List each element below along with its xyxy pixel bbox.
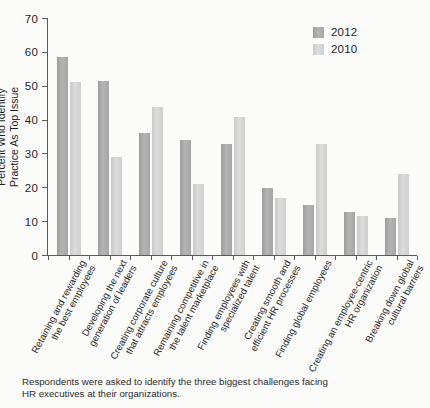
bar-2010: [193, 184, 204, 255]
bar-2012: [303, 205, 314, 255]
bar-2010: [152, 107, 163, 255]
y-tick-label-20: 20: [25, 182, 38, 194]
legend-item-2010[interactable]: 2010: [313, 43, 357, 55]
legend-label-2010: 2010: [331, 43, 357, 55]
legend-item-2012[interactable]: 2012: [313, 26, 357, 38]
y-axis-title-line-0: Percent Who Identify: [0, 87, 7, 187]
chart-legend: 20122010: [313, 26, 357, 55]
y-tick-60: 60: [42, 52, 47, 53]
y-tick-70: 70: [42, 18, 47, 19]
y-tick-label-70: 70: [25, 13, 38, 25]
bar-group: [212, 18, 253, 255]
bar-2010: [398, 174, 409, 255]
bar-2012: [344, 212, 355, 255]
bar-group: [48, 18, 89, 255]
bar-group: [130, 18, 171, 255]
footnote-line-1: HR executives at their organizations.: [22, 388, 412, 400]
bar-2012: [139, 133, 150, 255]
bar-2010: [234, 117, 245, 255]
bar-2012: [221, 144, 232, 255]
bar-series-container: [48, 18, 417, 255]
bar-2010: [316, 144, 327, 255]
y-tick-label-30: 30: [25, 148, 38, 160]
y-tick-10: 10: [42, 221, 47, 222]
y-tick-50: 50: [42, 86, 47, 87]
legend-swatch-2012: [313, 27, 324, 38]
footnote-line-0: Respondents were asked to identify the t…: [22, 376, 412, 388]
y-axis-title-line-1: Practice As Top Issue: [7, 87, 20, 187]
y-tick-40: 40: [42, 120, 47, 121]
bar-2012: [180, 140, 191, 255]
bar-group: [253, 18, 294, 255]
bar-group: [376, 18, 417, 255]
bar-2010: [275, 198, 286, 255]
bar-2012: [262, 188, 273, 255]
bar-2012: [385, 218, 396, 255]
y-tick-0: 0: [42, 255, 47, 256]
bar-2010: [357, 216, 368, 255]
y-tick-label-0: 0: [31, 250, 38, 262]
bar-chart-figure: 010203040506070 Percent Who IdentifyPrac…: [0, 0, 430, 408]
y-tick-label-40: 40: [25, 114, 38, 126]
bar-group: [171, 18, 212, 255]
x-axis-category-labels: Retaining and rewardingthe best employee…: [47, 258, 417, 368]
y-tick-label-60: 60: [25, 46, 38, 58]
y-tick-20: 20: [42, 187, 47, 188]
legend-label-2012: 2012: [331, 26, 357, 38]
y-tick-30: 30: [42, 153, 47, 154]
bar-group: [89, 18, 130, 255]
bar-2010: [111, 157, 122, 255]
bar-2010: [70, 82, 81, 255]
plot-area: 010203040506070 Percent Who IdentifyPrac…: [47, 18, 417, 256]
y-axis-title: Percent Who IdentifyPractice As Top Issu…: [0, 87, 20, 187]
y-tick-label-50: 50: [25, 80, 38, 92]
chart-footnote: Respondents were asked to identify the t…: [22, 376, 412, 401]
bar-2012: [98, 81, 109, 255]
legend-swatch-2010: [313, 44, 324, 55]
x-tick-boundary-9: [417, 256, 418, 260]
bar-2012: [57, 57, 68, 255]
y-tick-label-10: 10: [25, 216, 38, 228]
x-label-0: Retaining and rewardingthe best employee…: [30, 258, 98, 360]
